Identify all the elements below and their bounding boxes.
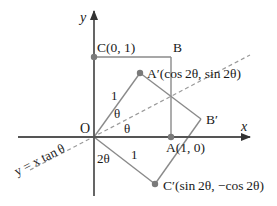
- length-label-OC-prime: 1: [131, 147, 138, 162]
- reflection-diagram: x y O C(0, 1) B A′(cos 2θ, sin 2θ) B′ A(…: [0, 0, 277, 206]
- label-A: A(1, 0): [166, 140, 205, 155]
- x-axis-label: x: [240, 119, 248, 134]
- angle-label-theta-lower: θ: [124, 121, 130, 136]
- label-B-prime: B′: [206, 112, 218, 127]
- label-B: B: [173, 40, 182, 55]
- label-C-prime: C′(sin 2θ, −cos 2θ): [163, 178, 264, 193]
- y-axis-label: y: [78, 10, 87, 25]
- angle-label-two-theta: 2θ: [97, 151, 110, 166]
- origin-label: O: [80, 121, 90, 136]
- point-A-prime: [137, 70, 143, 76]
- segment-OA-prime: [94, 73, 140, 137]
- length-label-OA-prime: 1: [111, 88, 118, 103]
- label-A-prime: A′(cos 2θ, sin 2θ): [147, 66, 241, 81]
- point-C-prime: [152, 181, 158, 187]
- angle-label-theta-upper: θ: [114, 106, 120, 121]
- label-C: C(0, 1): [97, 40, 135, 55]
- mirror-line-equation: y = x tan θ: [12, 140, 68, 178]
